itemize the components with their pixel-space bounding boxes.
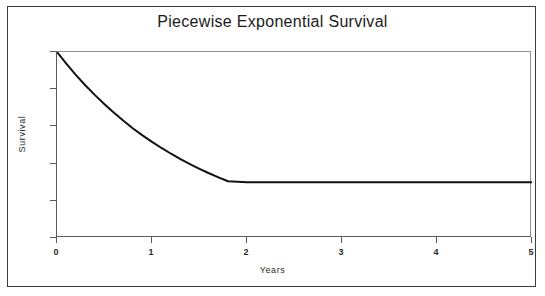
survival-curve xyxy=(57,52,532,238)
survival-curve-line xyxy=(57,52,532,182)
x-tick-label: 3 xyxy=(321,247,361,257)
x-tick-label: 4 xyxy=(416,247,456,257)
y-axis-label: Survival xyxy=(17,84,27,184)
x-tick-label: 5 xyxy=(511,247,545,257)
y-tick-group: 1.0 xyxy=(0,51,56,52)
chart-figure: Piecewise Exponential Survival Survival … xyxy=(0,0,545,296)
y-tick-group: 0.8 xyxy=(0,88,56,89)
x-tick-label: 0 xyxy=(36,247,76,257)
y-tick-group: 0.4 xyxy=(0,163,56,164)
chart-title: Piecewise Exponential Survival xyxy=(0,13,545,31)
y-tick-group: 0.2 xyxy=(0,200,56,201)
y-tick-group: 0.6 xyxy=(0,125,56,126)
x-tick-label: 1 xyxy=(131,247,171,257)
y-tick-group: 0.0 xyxy=(0,237,56,238)
plot-area xyxy=(56,51,531,237)
x-axis-label: Years xyxy=(0,265,545,275)
x-tick-label: 2 xyxy=(226,247,266,257)
